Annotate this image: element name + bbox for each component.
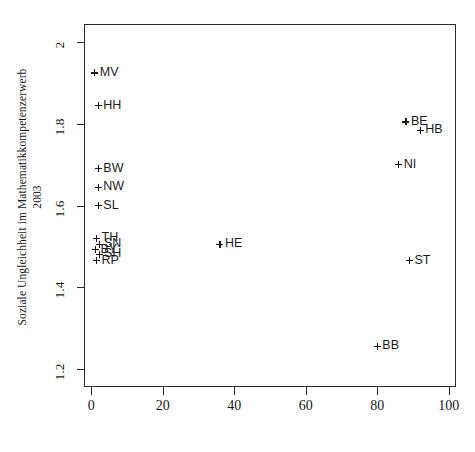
data-point-label: HB (425, 123, 442, 136)
plot-data-area: MVHHBWNWSLTHSNBYSHRPHEBEHBNISTBB (84, 24, 456, 387)
plus-marker-icon (95, 165, 102, 172)
y-axis-title-line2: 2003 (30, 17, 45, 377)
plus-marker-icon (95, 202, 102, 209)
y-tick-label: 2 (47, 35, 73, 49)
plus-marker-icon (95, 184, 102, 191)
y-axis-title-line1: Soziale Ungleichheit im Mathematikkompet… (16, 69, 28, 326)
x-tick-label: 60 (283, 398, 329, 414)
y-tick-label: 1.4 (47, 280, 73, 294)
x-tick-mark (234, 387, 235, 395)
plus-marker-icon (402, 118, 409, 125)
data-point-label: ST (415, 254, 431, 267)
y-tick-label: 1.8 (47, 117, 73, 131)
x-tick-label: 80 (354, 398, 400, 414)
scatter-plot-figure: Soziale Ungleichheit im Mathematikkompet… (0, 0, 475, 452)
plus-marker-icon (95, 102, 102, 109)
x-tick-mark (377, 387, 378, 395)
data-point-label: NW (103, 180, 124, 193)
x-tick-mark (91, 387, 92, 395)
data-point-label: HE (225, 237, 242, 250)
y-axis-title: Soziale Ungleichheit im Mathematikkompet… (0, 0, 52, 400)
y-tick-label: 1.6 (47, 199, 73, 213)
x-tick-label: 100 (426, 398, 472, 414)
x-tick-mark (449, 387, 450, 395)
data-point-label: NI (404, 158, 417, 171)
plus-marker-icon (374, 343, 381, 350)
plus-marker-icon (417, 127, 424, 134)
data-point-label: SL (103, 199, 118, 212)
data-point-label: BB (382, 339, 399, 352)
plus-marker-icon (406, 257, 413, 264)
data-point-label: RP (102, 254, 119, 267)
x-tick-mark (163, 387, 164, 395)
plus-marker-icon (395, 161, 402, 168)
plus-marker-icon (91, 69, 98, 76)
x-tick-mark (306, 387, 307, 395)
data-point-label: HH (103, 99, 121, 112)
plus-marker-icon (216, 241, 223, 248)
data-point-label: MV (100, 66, 119, 79)
x-tick-label: 40 (211, 398, 257, 414)
plus-marker-icon (93, 257, 100, 264)
data-point-label: BW (103, 162, 123, 175)
y-tick-label: 1.2 (47, 362, 73, 376)
x-tick-label: 20 (140, 398, 186, 414)
x-tick-label: 0 (68, 398, 114, 414)
